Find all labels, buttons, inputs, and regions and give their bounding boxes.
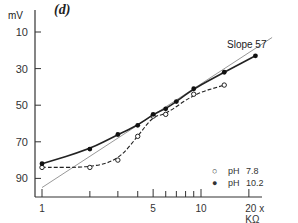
- x-tick-label: 20 x KΩ: [245, 203, 280, 223]
- panel-label: (d): [54, 2, 70, 18]
- y-tick-label: 70: [4, 136, 28, 148]
- data-point: [163, 106, 168, 111]
- data-point: [253, 53, 258, 58]
- data-point: [222, 70, 227, 75]
- data-point: [87, 147, 92, 152]
- legend-item-ph78: ○ pH 7.8: [212, 165, 264, 177]
- data-point: [115, 132, 120, 137]
- data-point: [88, 165, 92, 169]
- y-tick-label: 50: [4, 99, 28, 111]
- data-point: [164, 112, 168, 116]
- data-point: [135, 123, 140, 128]
- chart-plot: [0, 0, 298, 223]
- x-tick-label: 5: [150, 203, 156, 214]
- open-circle-icon: ○: [212, 166, 224, 176]
- legend: ○ pH 7.8 ● pH 10.2: [212, 165, 264, 189]
- data-point: [174, 99, 179, 104]
- slope-annotation: Slope 57: [227, 39, 266, 50]
- data-point: [40, 161, 45, 166]
- y-tick-label: 10: [4, 26, 28, 38]
- data-point: [222, 83, 226, 87]
- data-point: [192, 92, 196, 96]
- x-tick-label: 1: [39, 203, 45, 214]
- data-point: [191, 86, 196, 91]
- y-axis-unit: mV: [8, 10, 23, 21]
- legend-item-ph102: ● pH 10.2: [212, 177, 264, 189]
- filled-circle-icon: ●: [212, 178, 224, 188]
- y-tick-label: 30: [4, 63, 28, 75]
- data-point: [116, 158, 120, 162]
- y-tick-label: 90: [4, 172, 28, 184]
- data-point: [136, 134, 140, 138]
- x-tick-label: 10: [195, 203, 206, 214]
- data-point: [151, 112, 156, 117]
